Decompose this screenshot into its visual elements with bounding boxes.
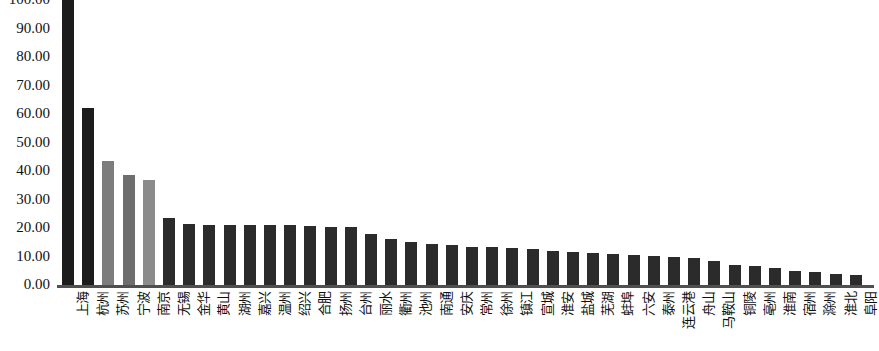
y-axis-tick-label: 60.00 bbox=[0, 106, 50, 121]
x-axis-baseline bbox=[57, 285, 874, 288]
x-axis-tick-label: 安庆 bbox=[459, 291, 475, 351]
x-axis-tick-label: 合肥 bbox=[317, 291, 333, 351]
bar bbox=[244, 225, 256, 285]
x-axis-tick-label: 舟山 bbox=[701, 291, 717, 351]
x-axis-tick-label: 宁波 bbox=[136, 291, 152, 351]
x-axis-tick-label: 蚌埠 bbox=[620, 291, 636, 351]
y-axis-tick-label: 50.00 bbox=[0, 135, 50, 150]
x-axis-tick-label: 杭州 bbox=[95, 291, 111, 351]
bar bbox=[82, 108, 94, 285]
x-axis-tick-label: 滁州 bbox=[822, 291, 838, 351]
x-axis-tick-label: 黄山 bbox=[216, 291, 232, 351]
bar bbox=[446, 245, 458, 285]
bar bbox=[809, 272, 821, 285]
x-axis-tick-label: 宿州 bbox=[802, 291, 818, 351]
bar bbox=[789, 271, 801, 285]
bar bbox=[183, 224, 195, 285]
x-axis-tick-label: 马鞍山 bbox=[721, 291, 737, 351]
y-axis-tick-label: 40.00 bbox=[0, 163, 50, 178]
y-axis-tick-label: 30.00 bbox=[0, 192, 50, 207]
y-axis: 100.0090.0080.0070.0060.0050.0040.0030.0… bbox=[0, 0, 56, 291]
bar bbox=[62, 0, 74, 285]
x-axis-labels: 上海杭州苏州宁波南京无锡金华黄山湖州嘉兴温州绍兴合肥扬州台州丽水衢州池州南通安庆… bbox=[57, 291, 874, 351]
x-axis-tick-label: 丽水 bbox=[378, 291, 394, 351]
bars-layer bbox=[57, 0, 874, 285]
x-axis-tick-label: 徐州 bbox=[499, 291, 515, 351]
bar bbox=[628, 255, 640, 285]
bar bbox=[688, 258, 700, 285]
x-axis-tick-label: 铜陵 bbox=[742, 291, 758, 351]
x-axis-tick-label: 淮北 bbox=[843, 291, 859, 351]
x-axis-tick-label: 淮安 bbox=[560, 291, 576, 351]
x-axis-tick-label: 池州 bbox=[418, 291, 434, 351]
x-axis-tick-label: 无锡 bbox=[176, 291, 192, 351]
bar bbox=[365, 234, 377, 285]
x-axis-tick-label: 淮南 bbox=[782, 291, 798, 351]
y-axis-tick-label: 100.00 bbox=[0, 0, 50, 7]
bar bbox=[203, 225, 215, 285]
bar bbox=[587, 253, 599, 285]
plot-area bbox=[57, 0, 874, 288]
bar bbox=[769, 268, 781, 285]
x-axis-tick-label: 嘉兴 bbox=[257, 291, 273, 351]
x-axis-tick-label: 常州 bbox=[479, 291, 495, 351]
x-axis-tick-label: 六安 bbox=[641, 291, 657, 351]
bar bbox=[264, 225, 276, 285]
x-axis-tick-label: 南通 bbox=[439, 291, 455, 351]
bar bbox=[729, 265, 741, 285]
bar bbox=[284, 225, 296, 285]
y-axis-tick-label: 90.00 bbox=[0, 21, 50, 36]
y-axis-tick-label: 80.00 bbox=[0, 49, 50, 64]
x-axis-tick-label: 南京 bbox=[156, 291, 172, 351]
bar bbox=[466, 247, 478, 285]
y-axis-tick-label: 0.00 bbox=[0, 277, 50, 292]
bar bbox=[405, 242, 417, 285]
x-axis-tick-label: 绍兴 bbox=[297, 291, 313, 351]
bar bbox=[325, 227, 337, 285]
x-axis-tick-label: 盐城 bbox=[580, 291, 596, 351]
x-axis-tick-label: 台州 bbox=[358, 291, 374, 351]
y-axis-tick-label: 70.00 bbox=[0, 78, 50, 93]
x-axis-tick-label: 衢州 bbox=[398, 291, 414, 351]
x-axis-tick-label: 温州 bbox=[277, 291, 293, 351]
bar bbox=[527, 249, 539, 285]
bar bbox=[749, 266, 761, 285]
x-axis-tick-label: 泰州 bbox=[661, 291, 677, 351]
bar bbox=[830, 274, 842, 285]
x-axis-tick-label: 湖州 bbox=[237, 291, 253, 351]
x-axis-tick-label: 连云港 bbox=[681, 291, 697, 351]
x-axis-tick-label: 上海 bbox=[75, 291, 91, 351]
bar bbox=[547, 251, 559, 285]
bar bbox=[224, 225, 236, 285]
x-axis-tick-label: 苏州 bbox=[115, 291, 131, 351]
bar bbox=[506, 248, 518, 285]
x-axis-tick-label: 镇江 bbox=[519, 291, 535, 351]
bar bbox=[163, 218, 175, 285]
bar bbox=[607, 254, 619, 285]
bar bbox=[345, 227, 357, 285]
x-axis-tick-label: 金华 bbox=[196, 291, 212, 351]
bar bbox=[143, 180, 155, 285]
x-axis-tick-label: 宣城 bbox=[540, 291, 556, 351]
bar bbox=[102, 161, 114, 285]
bar bbox=[668, 257, 680, 286]
bar bbox=[426, 244, 438, 285]
bar bbox=[850, 275, 862, 285]
bar bbox=[486, 247, 498, 285]
x-axis-tick-label: 扬州 bbox=[338, 291, 354, 351]
bar bbox=[567, 252, 579, 285]
bar bbox=[123, 175, 135, 285]
x-axis-tick-label: 阜阳 bbox=[863, 291, 879, 351]
x-axis-tick-label: 芜湖 bbox=[600, 291, 616, 351]
x-axis-tick-label: 亳州 bbox=[762, 291, 778, 351]
bar bbox=[648, 256, 660, 285]
y-axis-tick-label: 20.00 bbox=[0, 220, 50, 235]
bar bbox=[304, 226, 316, 285]
y-axis-tick-label: 10.00 bbox=[0, 249, 50, 264]
bar bbox=[385, 239, 397, 285]
bar bbox=[708, 261, 720, 285]
